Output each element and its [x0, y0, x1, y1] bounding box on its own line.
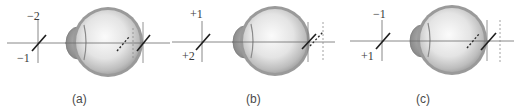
caption-c: (c) — [416, 92, 430, 106]
caption-a: (a) — [72, 92, 87, 106]
panel-a: −2 −1 (a) — [7, 7, 170, 106]
panel-c: −1 +1 (c) — [350, 5, 514, 106]
oblique-meridian-label: −1 — [17, 51, 30, 65]
eye-illustration — [233, 6, 310, 76]
vertical-meridian-label: +1 — [190, 7, 203, 21]
vertical-meridian-label: −2 — [27, 9, 40, 23]
eye-illustration — [410, 5, 487, 75]
caption-b: (b) — [246, 92, 261, 106]
panel-b: +1 +2 (b) — [172, 6, 335, 106]
oblique-meridian-label: +1 — [361, 49, 374, 63]
eye-illustration — [66, 7, 143, 77]
oblique-meridian-label: +2 — [182, 49, 195, 63]
astigmatism-diagram: −2 −1 (a) +1 +2 (b) — [0, 0, 519, 111]
vertical-meridian-label: −1 — [373, 7, 386, 21]
